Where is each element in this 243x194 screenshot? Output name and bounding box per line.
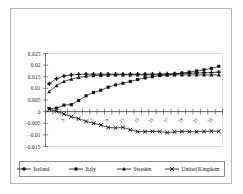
series-line: [49, 75, 219, 92]
data-point-marker: [70, 103, 73, 106]
data-point-marker: [136, 78, 139, 81]
x-axis-tick-label: 21: [192, 116, 199, 123]
figure-root: 0.0250.020.0150.010.0050-0.005-0.01-0.01…: [0, 0, 243, 194]
legend-label: Sweden: [134, 166, 152, 172]
y-axis-tick-label: 0.01: [31, 85, 41, 91]
legend-label: United Kingdom: [182, 166, 220, 172]
series-ireland: [47, 70, 221, 86]
x-axis-tick-label: 3: [60, 117, 66, 122]
series-sweden: [47, 73, 221, 93]
data-point-marker: [77, 99, 80, 102]
data-point-marker: [99, 89, 102, 92]
x-axis-tick-label: 9: [104, 117, 110, 122]
x-axis-tick-label: 15: [148, 116, 155, 123]
series-line: [49, 72, 219, 84]
data-point-marker: [85, 94, 88, 97]
y-axis-tick-label: -0.015: [26, 144, 41, 150]
data-point-marker: [74, 167, 77, 170]
y-axis-tick-label: 0.025: [28, 51, 41, 57]
data-point-marker: [107, 86, 110, 89]
data-point-marker: [129, 80, 132, 83]
data-point-marker: [217, 65, 220, 68]
data-point-marker: [195, 69, 198, 72]
series-line: [49, 66, 219, 108]
y-axis-tick-label: 0.005: [28, 97, 41, 103]
x-axis-tick-label: 17: [163, 116, 170, 123]
x-axis-tick-label: 19: [177, 116, 184, 123]
y-axis-tick-label: 0.02: [31, 62, 41, 68]
x-axis-tick-label: 23: [207, 116, 214, 123]
data-point-marker: [55, 84, 59, 87]
data-point-marker: [144, 76, 147, 79]
y-axis-tick-label: 0: [38, 109, 41, 115]
chart-svg: 0.0250.020.0150.010.0050-0.005-0.01-0.01…: [0, 0, 243, 194]
y-axis-tick-label: -0.005: [26, 120, 41, 126]
y-axis-tick-label: -0.01: [29, 132, 41, 138]
data-point-marker: [62, 74, 66, 78]
data-point-marker: [62, 104, 65, 107]
legend-label: Ireland: [34, 166, 50, 172]
data-point-marker: [69, 73, 73, 77]
data-point-marker: [210, 67, 213, 70]
data-point-marker: [114, 83, 117, 86]
chart-plot-area: 0.0250.020.0150.010.0050-0.005-0.01-0.01…: [0, 0, 243, 194]
series-italy: [48, 65, 221, 110]
legend-label: Italy: [86, 166, 96, 172]
y-axis-tick-label: 0.015: [28, 74, 41, 80]
data-point-marker: [62, 112, 66, 116]
data-point-marker: [121, 82, 124, 85]
data-point-marker: [55, 107, 58, 110]
x-axis-tick-label: 13: [133, 116, 140, 123]
data-point-marker: [92, 91, 95, 94]
data-point-marker: [203, 68, 206, 71]
x-axis-tick-label: 11: [118, 116, 125, 123]
